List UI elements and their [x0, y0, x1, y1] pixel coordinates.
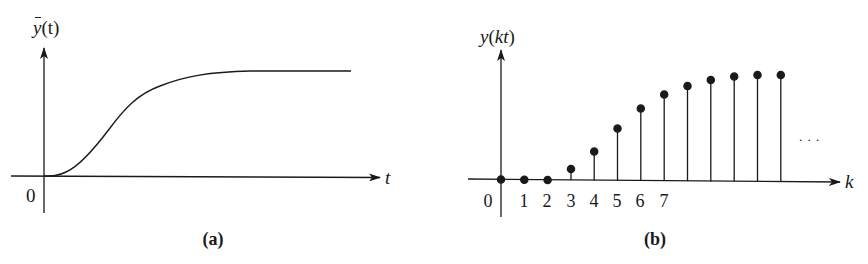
figure-canvas	[0, 0, 868, 264]
tick-label-1: 1	[520, 192, 529, 210]
panel-b-stems	[497, 71, 784, 183]
panel-a-response-curve	[44, 71, 351, 176]
panel-b-y-axis-label: y(kt)	[480, 27, 515, 46]
panel-a-plot	[11, 48, 380, 213]
tick-label-3: 3	[567, 192, 576, 210]
paren-close: )	[508, 26, 514, 47]
y-label-argument: (t)	[41, 17, 59, 38]
panel-a-x-axis-label: t	[385, 168, 390, 187]
panel-a-y-axis-label: y(t)	[33, 18, 59, 37]
y-bar-symbol: y	[33, 18, 41, 37]
panel-b-caption: (b)	[644, 230, 666, 248]
panel-b-origin-label: 0	[484, 192, 493, 210]
tick-label-2: 2	[543, 192, 552, 210]
panel-a-origin-label: 0	[26, 186, 36, 205]
panel-a-caption: (a)	[203, 230, 224, 248]
panel-a-x-axis	[11, 176, 380, 178]
panel-b-x-axis-label: k	[845, 172, 853, 191]
panel-b-ellipsis: . . .	[799, 130, 820, 143]
tick-label-6: 6	[636, 192, 645, 210]
tick-label-4: 4	[590, 192, 599, 210]
tick-label-7: 7	[660, 192, 669, 210]
kt-symbol: kt	[495, 26, 509, 47]
tick-label-5: 5	[613, 192, 622, 210]
